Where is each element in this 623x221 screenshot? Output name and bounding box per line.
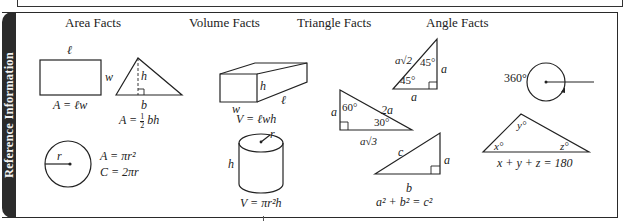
rectangle-area-formula: A = ℓw <box>53 99 87 111</box>
angle-x-label: x° <box>494 141 503 152</box>
column-divider-tick <box>263 216 264 221</box>
triangle-area-formula: A = 12 bh <box>119 113 159 130</box>
area-facts-title: Area Facts <box>65 15 121 31</box>
cylinder-height-label: h <box>228 158 234 170</box>
box-height-label: h <box>260 80 266 92</box>
306090-base-label: a√3 <box>360 136 377 147</box>
angle-facts-title: Angle Facts <box>426 15 488 31</box>
pyth-hypotenuse-label: c <box>398 146 403 158</box>
circle-radius-label: r <box>57 150 62 162</box>
iso-right-leg-label: a <box>441 63 447 75</box>
iso-bottom-angle-label: 45° <box>400 75 415 86</box>
circle-circumference-formula: C = 2πr <box>100 166 139 178</box>
cylinder-radius-label: r <box>270 128 275 140</box>
pythagorean-formula: a² + b² = c² <box>376 196 432 208</box>
triangle-facts-title: Triangle Facts <box>297 15 371 31</box>
iso-hypotenuse-label: a√2 <box>395 55 412 66</box>
previous-content-box <box>17 0 623 7</box>
circle-area-formula: A = πr² <box>100 150 136 162</box>
iso-bottom-leg-label: a <box>411 91 417 103</box>
box-length-label: ℓ <box>281 94 286 106</box>
angle-z-label: z° <box>560 141 569 152</box>
cylinder-volume-formula: V = πr²h <box>240 197 282 209</box>
triangle-height-label: h <box>141 70 147 82</box>
pyth-base-label: b <box>406 182 412 194</box>
306090-top-angle-label: 60° <box>342 102 357 113</box>
rectangle-length-label: ℓ <box>67 44 72 56</box>
volume-facts-title: Volume Facts <box>189 15 260 31</box>
iso-top-angle-label: 45° <box>420 57 435 68</box>
reference-side-label: Reference Information <box>2 52 17 178</box>
306090-left-label: a <box>331 106 337 118</box>
angle-y-label: y° <box>517 120 526 131</box>
reference-panel <box>2 12 618 218</box>
rectangle-width-label: w <box>105 71 113 83</box>
306090-hypotenuse-label: 2a <box>381 104 393 116</box>
pyth-right-leg-label: a <box>444 154 450 166</box>
306090-bottom-angle-label: 30° <box>374 117 389 128</box>
triangle-base-label: b <box>141 99 147 111</box>
box-volume-formula: V = ℓwh <box>236 113 276 125</box>
angle-sum-formula: x + y + z = 180 <box>497 157 573 169</box>
full-angle-label: 360° <box>504 72 527 84</box>
